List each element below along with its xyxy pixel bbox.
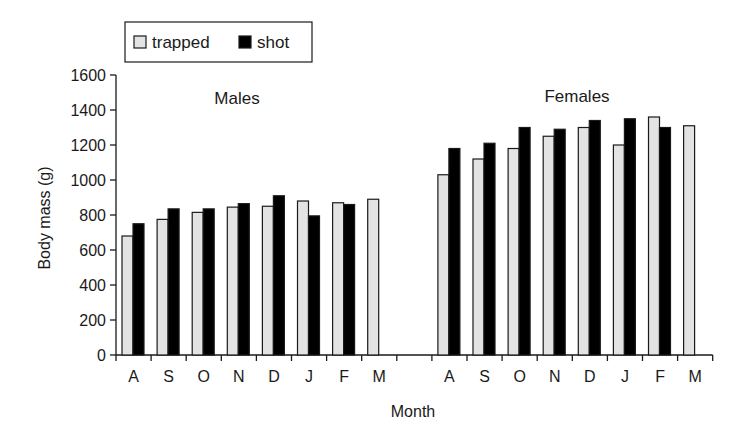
bar-males-trapped-N [227, 207, 238, 355]
bar-females-trapped-F [649, 117, 660, 355]
bar-males-trapped-D [262, 206, 273, 355]
x-tick-label: A [128, 368, 139, 385]
bar-females-trapped-O [508, 149, 519, 356]
x-tick-label: O [513, 368, 525, 385]
bar-females-shot-J [624, 119, 635, 355]
x-tick-label: D [584, 368, 596, 385]
group-label-females: Females [544, 87, 609, 106]
x-tick-label: N [233, 368, 245, 385]
bar-males-trapped-S [157, 219, 168, 355]
bar-males-shot-D [273, 196, 284, 355]
bar-males-trapped-J [298, 201, 309, 355]
bar-males-shot-N [238, 204, 249, 355]
y-tick-label: 1400 [70, 102, 106, 119]
y-tick-label: 200 [79, 312, 106, 329]
legend-swatch-trapped [134, 36, 146, 48]
bar-males-trapped-A [122, 236, 133, 355]
legend-label-trapped: trapped [152, 33, 210, 52]
y-tick-label: 1000 [70, 172, 106, 189]
bar-females-shot-F [660, 128, 671, 356]
legend-label-shot: shot [257, 33, 289, 52]
bar-females-shot-O [519, 128, 530, 356]
bar-males-trapped-F [333, 203, 344, 355]
bar-males-shot-J [309, 216, 320, 355]
x-tick-label: M [688, 368, 701, 385]
bar-females-shot-N [554, 129, 565, 355]
bar-chart: trapped shot Males Females 0200400600800… [0, 0, 747, 444]
x-tick-label: J [621, 368, 629, 385]
y-axis: 02004006008001000120014001600 [70, 67, 116, 364]
y-axis-title: Body mass (g) [36, 166, 53, 269]
x-tick-label: M [373, 368, 386, 385]
legend: trapped shot [125, 22, 312, 62]
x-tick-label: O [198, 368, 210, 385]
y-tick-label: 1600 [70, 67, 106, 84]
x-axis-title: Month [391, 403, 435, 420]
x-tick-label: S [479, 368, 490, 385]
bar-females-trapped-D [578, 128, 589, 356]
bar-males-trapped-M [368, 199, 379, 355]
y-tick-label: 1200 [70, 137, 106, 154]
bar-females-shot-S [484, 143, 495, 355]
bar-females-shot-A [449, 149, 460, 356]
x-tick-label: F [339, 368, 349, 385]
bar-males-trapped-O [192, 212, 203, 355]
bar-females-trapped-A [438, 175, 449, 355]
y-tick-label: 0 [97, 347, 106, 364]
y-tick-label: 600 [79, 242, 106, 259]
y-tick-label: 800 [79, 207, 106, 224]
bar-males-shot-S [168, 209, 179, 355]
x-tick-label: S [163, 368, 174, 385]
bar-males-shot-A [133, 224, 144, 355]
y-tick-label: 400 [79, 277, 106, 294]
x-tick-label: N [549, 368, 561, 385]
bar-females-trapped-J [613, 145, 624, 355]
bar-males-shot-F [344, 205, 355, 356]
legend-swatch-shot [239, 36, 251, 48]
bar-males-shot-O [203, 209, 214, 355]
bar-females-trapped-S [473, 159, 484, 355]
x-axis: ASONDJFMASONDJFM [116, 355, 713, 385]
group-label-males: Males [214, 89, 259, 108]
x-tick-label: D [268, 368, 280, 385]
x-tick-label: A [444, 368, 455, 385]
bar-females-shot-D [589, 121, 600, 356]
bar-females-trapped-M [684, 126, 695, 355]
x-tick-label: J [305, 368, 313, 385]
bars [122, 117, 695, 355]
x-tick-label: F [655, 368, 665, 385]
bar-females-trapped-N [543, 136, 554, 355]
